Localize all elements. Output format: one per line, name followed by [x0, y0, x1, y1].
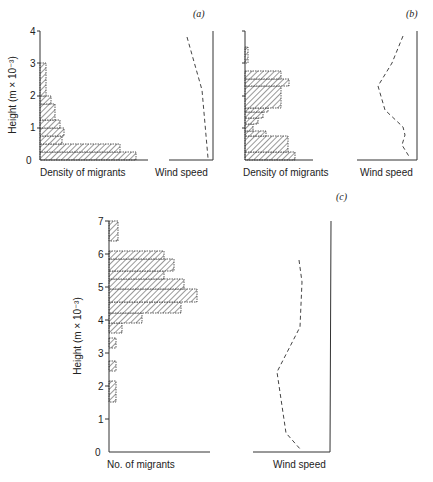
x-label-density-a: Density of migrants — [40, 167, 126, 178]
bar — [245, 71, 281, 79]
bar — [40, 152, 136, 160]
panel-b-histogram: Density of migrants — [242, 31, 329, 178]
svg-text:6: 6 — [98, 249, 104, 260]
wind-profile-c — [277, 260, 302, 450]
bar — [40, 144, 120, 152]
panel-label-a: (a) — [193, 8, 205, 20]
bar — [245, 118, 258, 124]
bar — [109, 361, 116, 371]
svg-text:4: 4 — [98, 315, 104, 326]
svg-text:3: 3 — [98, 348, 104, 359]
bar — [109, 289, 197, 302]
bar — [109, 221, 118, 241]
bar — [245, 152, 295, 160]
svg-text:0: 0 — [26, 155, 32, 166]
panel-label-c: (c) — [336, 191, 348, 203]
bar — [109, 302, 181, 313]
panel-a-histogram: Height (m × 10⁻³) 0 1 2 3 4 Density of m… — [7, 26, 148, 178]
x-label-number-c: No. of migrants — [107, 459, 175, 470]
svg-text:2: 2 — [98, 381, 104, 392]
bar — [109, 381, 116, 402]
svg-text:2: 2 — [30, 90, 36, 101]
y-ticks-a: 0 1 2 3 4 — [26, 26, 40, 166]
svg-text:7: 7 — [98, 216, 104, 227]
bar — [40, 120, 60, 128]
svg-text:0: 0 — [95, 447, 101, 458]
bar — [245, 131, 266, 136]
bar — [109, 313, 142, 323]
svg-text:1: 1 — [98, 414, 104, 425]
x-label-wind-a: Wind speed — [155, 167, 208, 178]
x-label-wind-b: Wind speed — [360, 167, 413, 178]
x-label-wind-c: Wind speed — [273, 459, 326, 470]
svg-text:5: 5 — [98, 282, 104, 293]
panel-c-wind: Wind speed — [253, 221, 331, 470]
y-axis-label-a: Height (m × 10⁻³) — [7, 56, 18, 134]
panel-label-b: (b) — [406, 8, 418, 20]
bar — [40, 136, 62, 144]
svg-text:4: 4 — [30, 26, 36, 37]
bar — [40, 96, 51, 104]
bar — [109, 323, 122, 333]
panel-a-wind: Wind speed — [155, 31, 213, 178]
bar — [245, 108, 268, 112]
panel-b-wind: Wind speed — [357, 31, 417, 178]
bar — [109, 271, 164, 279]
y-axis-label-c: Height (m × 10⁻³) — [72, 297, 83, 375]
bar — [245, 112, 263, 118]
bar — [245, 86, 281, 108]
bar — [40, 128, 64, 136]
bar — [109, 338, 116, 348]
bar — [245, 79, 289, 86]
x-label-density-b: Density of migrants — [243, 167, 329, 178]
bar — [245, 136, 288, 152]
bar — [109, 259, 174, 271]
wind-profile-a — [187, 37, 208, 158]
wind-profile-b — [378, 36, 410, 158]
svg-text:1: 1 — [30, 122, 36, 133]
bar — [109, 279, 184, 289]
bar — [245, 124, 253, 131]
bar — [40, 63, 46, 96]
figure: (a) (b) (c) Height (m × 10⁻³) 0 1 2 3 4 … — [0, 0, 433, 482]
bar — [40, 104, 55, 120]
svg-text:3: 3 — [30, 58, 36, 69]
panel-c-histogram: Height (m × 10⁻³) 0 1 2 3 4 5 6 7 — [72, 216, 210, 470]
y-ticks-c: 0 1 2 3 4 5 6 7 — [95, 216, 109, 458]
bar — [109, 251, 164, 259]
